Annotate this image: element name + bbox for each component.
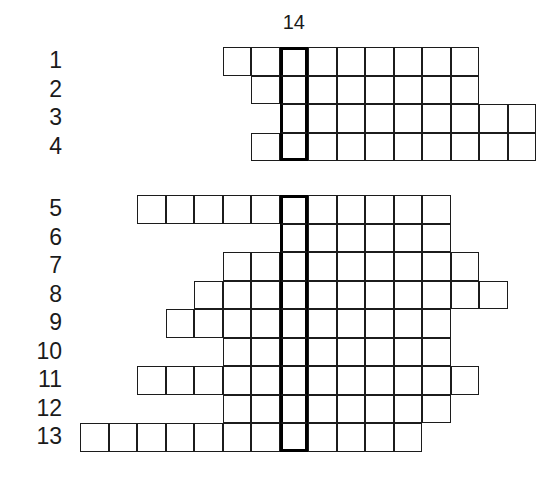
- grid-cell[interactable]: [308, 366, 337, 395]
- grid-cell[interactable]: [365, 309, 394, 338]
- grid-cell[interactable]: [223, 423, 252, 452]
- grid-cell[interactable]: [337, 104, 366, 133]
- grid-cell[interactable]: [479, 281, 508, 310]
- grid-cell[interactable]: [308, 252, 337, 281]
- grid-cell[interactable]: [223, 252, 252, 281]
- grid-cell[interactable]: [194, 366, 223, 395]
- grid-cell[interactable]: [451, 366, 480, 395]
- grid-cell[interactable]: [394, 423, 423, 452]
- grid-cell[interactable]: [394, 309, 423, 338]
- grid-cell[interactable]: [337, 224, 366, 253]
- grid-cell[interactable]: [394, 338, 423, 367]
- grid-cell[interactable]: [337, 76, 366, 105]
- grid-cell[interactable]: [451, 104, 480, 133]
- grid-cell[interactable]: [308, 309, 337, 338]
- grid-cell[interactable]: [479, 133, 508, 162]
- grid-cell[interactable]: [394, 104, 423, 133]
- grid-cell[interactable]: [308, 47, 337, 76]
- grid-cell[interactable]: [422, 395, 451, 424]
- grid-cell[interactable]: [394, 224, 423, 253]
- grid-cell[interactable]: [223, 281, 252, 310]
- grid-cell[interactable]: [308, 76, 337, 105]
- grid-cell[interactable]: [337, 366, 366, 395]
- grid-cell[interactable]: [251, 309, 280, 338]
- grid-cell[interactable]: [223, 395, 252, 424]
- grid-cell[interactable]: [394, 252, 423, 281]
- grid-cell[interactable]: [394, 133, 423, 162]
- grid-cell[interactable]: [451, 47, 480, 76]
- grid-cell-highlighted[interactable]: [280, 47, 309, 76]
- grid-cell-highlighted[interactable]: [280, 395, 309, 424]
- grid-cell[interactable]: [422, 224, 451, 253]
- grid-cell[interactable]: [337, 395, 366, 424]
- grid-cell[interactable]: [251, 395, 280, 424]
- grid-cell[interactable]: [422, 195, 451, 224]
- grid-cell-highlighted[interactable]: [280, 76, 309, 105]
- grid-cell[interactable]: [422, 309, 451, 338]
- grid-cell[interactable]: [365, 281, 394, 310]
- grid-cell[interactable]: [308, 224, 337, 253]
- grid-cell-highlighted[interactable]: [280, 423, 309, 452]
- grid-cell[interactable]: [365, 224, 394, 253]
- grid-cell[interactable]: [251, 423, 280, 452]
- grid-cell[interactable]: [223, 195, 252, 224]
- grid-cell[interactable]: [337, 133, 366, 162]
- grid-cell[interactable]: [251, 76, 280, 105]
- grid-cell-highlighted[interactable]: [280, 195, 309, 224]
- grid-cell[interactable]: [337, 47, 366, 76]
- grid-cell[interactable]: [337, 338, 366, 367]
- grid-cell-highlighted[interactable]: [280, 252, 309, 281]
- grid-cell[interactable]: [365, 338, 394, 367]
- grid-cell[interactable]: [337, 309, 366, 338]
- grid-cell[interactable]: [137, 366, 166, 395]
- grid-cell-highlighted[interactable]: [280, 104, 309, 133]
- grid-cell[interactable]: [365, 395, 394, 424]
- grid-cell[interactable]: [194, 281, 223, 310]
- grid-cell[interactable]: [479, 104, 508, 133]
- grid-cell[interactable]: [223, 338, 252, 367]
- grid-cell-highlighted[interactable]: [280, 366, 309, 395]
- grid-cell[interactable]: [394, 395, 423, 424]
- grid-cell[interactable]: [223, 309, 252, 338]
- grid-cell[interactable]: [451, 281, 480, 310]
- grid-cell[interactable]: [337, 195, 366, 224]
- grid-cell[interactable]: [422, 252, 451, 281]
- grid-cell[interactable]: [422, 47, 451, 76]
- grid-cell[interactable]: [422, 76, 451, 105]
- grid-cell[interactable]: [223, 366, 252, 395]
- grid-cell[interactable]: [365, 423, 394, 452]
- grid-cell[interactable]: [251, 47, 280, 76]
- grid-cell[interactable]: [337, 423, 366, 452]
- grid-cell[interactable]: [166, 195, 195, 224]
- grid-cell-highlighted[interactable]: [280, 338, 309, 367]
- grid-cell[interactable]: [251, 366, 280, 395]
- grid-cell[interactable]: [308, 423, 337, 452]
- grid-cell[interactable]: [394, 76, 423, 105]
- grid-cell[interactable]: [308, 133, 337, 162]
- grid-cell[interactable]: [251, 252, 280, 281]
- grid-cell[interactable]: [422, 338, 451, 367]
- grid-cell[interactable]: [365, 366, 394, 395]
- grid-cell[interactable]: [194, 423, 223, 452]
- grid-cell[interactable]: [508, 133, 537, 162]
- grid-cell[interactable]: [308, 338, 337, 367]
- grid-cell[interactable]: [337, 281, 366, 310]
- grid-cell[interactable]: [251, 195, 280, 224]
- grid-cell[interactable]: [365, 104, 394, 133]
- grid-cell[interactable]: [451, 133, 480, 162]
- grid-cell[interactable]: [365, 76, 394, 105]
- grid-cell[interactable]: [365, 195, 394, 224]
- grid-cell-highlighted[interactable]: [280, 133, 309, 162]
- grid-cell[interactable]: [166, 309, 195, 338]
- grid-cell[interactable]: [137, 195, 166, 224]
- grid-cell[interactable]: [251, 281, 280, 310]
- grid-cell[interactable]: [166, 423, 195, 452]
- grid-cell[interactable]: [109, 423, 138, 452]
- grid-cell[interactable]: [365, 133, 394, 162]
- grid-cell[interactable]: [394, 47, 423, 76]
- grid-cell[interactable]: [308, 395, 337, 424]
- grid-cell[interactable]: [422, 104, 451, 133]
- grid-cell[interactable]: [251, 338, 280, 367]
- grid-cell[interactable]: [394, 195, 423, 224]
- grid-cell[interactable]: [194, 309, 223, 338]
